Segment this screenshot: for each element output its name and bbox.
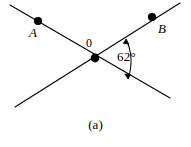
angle-arrowhead-lower bbox=[125, 74, 131, 79]
point-dot-o bbox=[91, 54, 100, 63]
point-label-b: B bbox=[158, 22, 166, 35]
figure-caption: (a) bbox=[0, 118, 191, 131]
point-label-o: 0 bbox=[86, 37, 92, 49]
point-label-a: A bbox=[29, 26, 37, 39]
line-upper-left-to-lower-right bbox=[10, 5, 170, 98]
figure-container: A 0 B 62° (a) bbox=[0, 0, 191, 147]
point-dot-b bbox=[148, 13, 156, 21]
point-dot-a bbox=[34, 17, 42, 25]
angle-arrowhead-upper bbox=[123, 39, 129, 44]
angle-measure-label: 62° bbox=[117, 50, 136, 63]
